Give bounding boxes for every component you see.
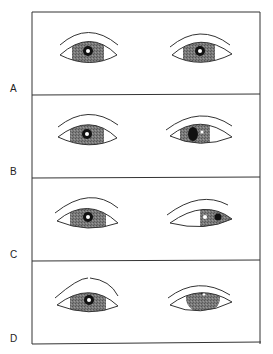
- left-eye-b: [58, 114, 118, 152]
- panel-frame: [32, 12, 261, 344]
- panel-label-a: A: [10, 83, 17, 94]
- panel-d: [55, 278, 232, 322]
- panel-label-c: C: [10, 249, 17, 260]
- panel-c: [55, 198, 234, 235]
- eye-panels-figure: [0, 0, 273, 354]
- left-eye-a: [60, 33, 118, 71]
- right-eye-c: [167, 199, 234, 232]
- panel-label-d: D: [10, 333, 17, 344]
- right-eye-a: [170, 34, 232, 70]
- left-eye-c: [55, 198, 118, 235]
- right-eye-b: [166, 116, 232, 152]
- right-eye-d: [168, 283, 232, 313]
- panel-a: [60, 33, 232, 71]
- panel-label-b: B: [10, 166, 17, 177]
- panel-b: [58, 114, 232, 152]
- left-eye-d: [55, 278, 118, 322]
